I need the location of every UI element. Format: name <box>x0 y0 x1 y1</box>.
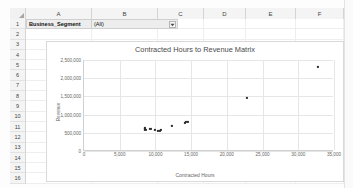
chart-title: Contracted Hours to Revenue Matrix <box>47 45 343 54</box>
row-header-5[interactable]: 5 <box>10 60 26 70</box>
grid-row <box>26 29 344 39</box>
x-axis-tick-label: 5,000 <box>114 152 126 157</box>
grid-cell[interactable] <box>296 29 344 38</box>
scatter-point[interactable] <box>171 125 173 127</box>
gridline-horizontal <box>84 115 333 116</box>
column-header-d[interactable]: D <box>204 8 246 19</box>
y-axis-tick-label: 1,500,000 <box>61 94 81 99</box>
y-axis-tick-label: 2,000,000 <box>61 76 81 81</box>
row-header-7[interactable]: 7 <box>10 81 26 91</box>
filter-selected-value: (All) <box>94 21 104 27</box>
x-axis-tick-label: 0 <box>83 152 86 157</box>
x-axis-tick-label: 10,000 <box>148 152 162 157</box>
row-header-9[interactable]: 9 <box>10 101 26 111</box>
gridline-horizontal <box>84 60 333 61</box>
gridline-vertical <box>227 60 228 150</box>
gridline-vertical <box>120 60 121 150</box>
x-axis-title: Contracted Hours <box>47 172 343 178</box>
grid-cell[interactable] <box>246 29 296 38</box>
y-axis-tick-label: 2,500,000 <box>61 58 81 63</box>
scatter-point[interactable] <box>154 129 156 131</box>
x-axis-tick-label: 30,000 <box>291 152 305 157</box>
grid-cell[interactable] <box>246 19 296 28</box>
grid-cell[interactable] <box>92 29 158 38</box>
gridline-horizontal <box>84 96 333 97</box>
plot-area: 0500,0001,000,0001,500,0002,000,0002,500… <box>83 60 333 151</box>
gridline-vertical <box>155 60 156 150</box>
chevron-down-icon[interactable] <box>169 21 176 28</box>
row-header-8[interactable]: 8 <box>10 91 26 101</box>
column-header-row: A B C D E F <box>10 8 344 19</box>
x-axis-tick-label: 25,000 <box>256 152 270 157</box>
grid-cell[interactable] <box>204 29 246 38</box>
row-header-16[interactable]: 16 <box>10 173 26 183</box>
row-header-15[interactable]: 15 <box>10 163 26 173</box>
row-header-4[interactable]: 4 <box>10 50 26 60</box>
x-axis-tick-label: 35,000 <box>327 152 341 157</box>
row-header-14[interactable]: 14 <box>10 153 26 163</box>
report-filter-row: Business_Segment (All) <box>26 19 178 29</box>
filter-field-label: Business_Segment <box>26 19 92 29</box>
scatter-point[interactable] <box>149 128 151 130</box>
y-axis-tick-label: 0 <box>78 149 81 154</box>
y-axis-tick-label: 1,000,000 <box>61 112 81 117</box>
column-header-c[interactable]: C <box>158 8 204 19</box>
column-header-e[interactable]: E <box>246 8 296 19</box>
scatter-point[interactable] <box>160 128 162 130</box>
excel-worksheet-screenshot: A B C D E F 12345678910111213141516 Busi… <box>0 0 353 188</box>
row-header-column: 12345678910111213141516 <box>10 19 26 184</box>
scatter-point[interactable] <box>144 129 146 131</box>
row-header-12[interactable]: 12 <box>10 132 26 142</box>
grid-cell[interactable] <box>26 29 92 38</box>
row-header-6[interactable]: 6 <box>10 70 26 80</box>
select-all-corner[interactable] <box>10 8 26 19</box>
gridline-vertical <box>334 60 335 150</box>
grid-cell[interactable] <box>158 29 204 38</box>
scatter-point[interactable] <box>186 121 188 123</box>
gridline-vertical <box>263 60 264 150</box>
row-header-2[interactable]: 2 <box>10 29 26 39</box>
row-header-3[interactable]: 3 <box>10 40 26 50</box>
y-axis-tick-label: 500,000 <box>64 130 81 135</box>
spreadsheet-grid: A B C D E F 12345678910111213141516 Busi… <box>10 8 344 184</box>
x-axis-tick-label: 20,000 <box>220 152 234 157</box>
column-header-f[interactable]: F <box>296 8 344 19</box>
row-header-11[interactable]: 11 <box>10 122 26 132</box>
gridline-vertical <box>298 60 299 150</box>
gridline-horizontal <box>84 78 333 79</box>
grid-cell[interactable] <box>296 19 344 28</box>
scatter-chart-object[interactable]: Contracted Hours to Revenue Matrix Reven… <box>46 41 344 182</box>
row-header-13[interactable]: 13 <box>10 143 26 153</box>
gridline-horizontal <box>84 133 333 134</box>
scatter-point[interactable] <box>246 97 248 99</box>
grid-cell[interactable] <box>204 19 246 28</box>
row-header-10[interactable]: 10 <box>10 112 26 122</box>
row-header-1[interactable]: 1 <box>10 19 26 29</box>
filter-value-cell[interactable]: (All) <box>92 19 178 29</box>
x-axis-tick-label: 15,000 <box>184 152 198 157</box>
gridline-vertical <box>191 60 192 150</box>
column-header-a[interactable]: A <box>26 8 92 19</box>
column-header-b[interactable]: B <box>92 8 158 19</box>
vertical-scrollbar[interactable] <box>344 0 353 188</box>
scatter-point[interactable] <box>317 66 319 68</box>
